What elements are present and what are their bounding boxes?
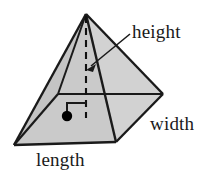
width-label: width: [150, 114, 194, 133]
pyramid-diagram: height width length: [0, 0, 212, 174]
center-dot: [62, 111, 72, 121]
height-label: height: [132, 22, 181, 41]
length-label: length: [36, 150, 85, 169]
